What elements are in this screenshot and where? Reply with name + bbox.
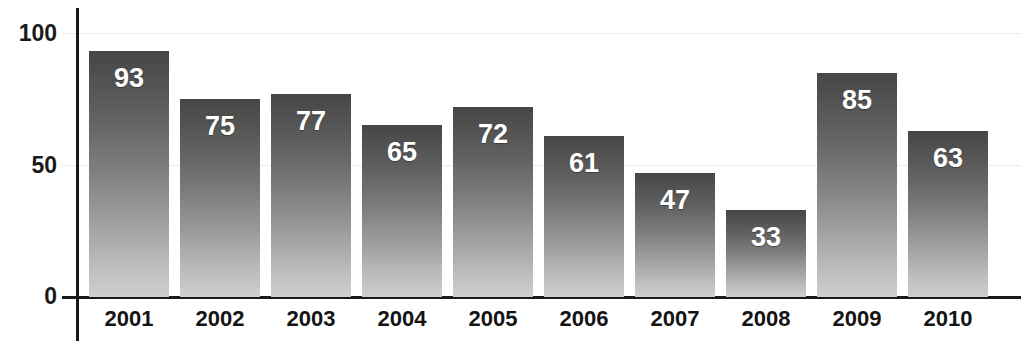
category-label-2005: 2005 [453,306,533,332]
bar-2009[interactable]: 85 [817,73,897,297]
bar-value-label: 65 [362,139,442,166]
bar-chart: 100 50 0 9320017520027720036520047220056… [0,0,1021,352]
category-label-2004: 2004 [362,306,442,332]
bar-value-label: 77 [271,108,351,135]
bar-value-label: 93 [89,65,169,92]
bar-2007[interactable]: 47 [635,173,715,297]
category-label-2002: 2002 [180,306,260,332]
bar-2003[interactable]: 77 [271,94,351,297]
bar-2006[interactable]: 61 [544,136,624,297]
bar-value-label: 33 [726,224,806,251]
bar-value-label: 72 [453,121,533,148]
category-label-2003: 2003 [271,306,351,332]
bar-value-label: 61 [544,150,624,177]
category-label-2001: 2001 [89,306,169,332]
bar-value-label: 75 [180,113,260,140]
bar-2001[interactable]: 93 [89,51,169,297]
bar-2008[interactable]: 33 [726,210,806,297]
bars-layer: 9320017520027720036520047220056120064720… [0,0,1021,352]
category-label-2007: 2007 [635,306,715,332]
bar-2005[interactable]: 72 [453,107,533,297]
bar-2010[interactable]: 63 [908,131,988,297]
category-label-2009: 2009 [817,306,897,332]
bar-2002[interactable]: 75 [180,99,260,297]
bar-2004[interactable]: 65 [362,125,442,297]
bar-value-label: 47 [635,187,715,214]
bar-value-label: 85 [817,87,897,114]
category-label-2010: 2010 [908,306,988,332]
bar-value-label: 63 [908,145,988,172]
category-label-2008: 2008 [726,306,806,332]
category-label-2006: 2006 [544,306,624,332]
